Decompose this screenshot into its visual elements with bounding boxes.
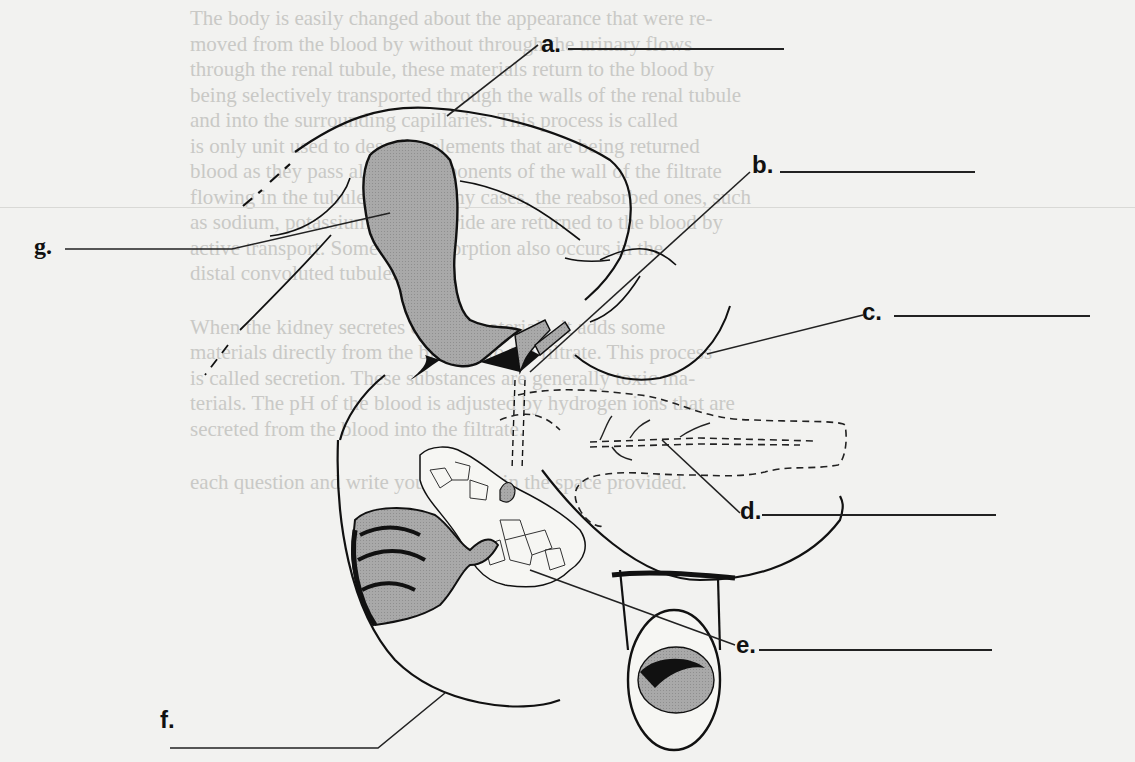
gallbladder: [363, 141, 540, 380]
label-e: e.: [736, 633, 756, 657]
pancreas: [500, 390, 846, 527]
answer-blank-f[interactable]: [180, 726, 380, 728]
leader-c: [707, 315, 863, 354]
answer-blank-a[interactable]: [568, 48, 784, 50]
label-g: g.: [34, 234, 52, 258]
leader-g: [65, 213, 390, 249]
label-d: d.: [740, 499, 761, 523]
leader-e: [530, 570, 735, 645]
intestine-cross-section: [628, 610, 720, 750]
leader-f: [170, 693, 445, 748]
answer-blank-c[interactable]: [894, 315, 1090, 317]
answer-blank-b[interactable]: [780, 171, 975, 173]
answer-blank-g[interactable]: [62, 250, 232, 252]
label-c: c.: [862, 300, 882, 324]
label-b: b.: [752, 153, 773, 177]
label-f: f.: [160, 708, 175, 732]
stomach-outline: [338, 306, 843, 707]
worksheet-page: The body is easily changed about the app…: [0, 0, 1135, 762]
anatomy-diagram: [0, 0, 1135, 762]
answer-blank-e[interactable]: [759, 649, 992, 651]
leader-b: [530, 172, 750, 372]
label-a: a.: [541, 32, 561, 56]
answer-blank-d[interactable]: [762, 514, 996, 516]
pancreatic-branches: [600, 416, 710, 460]
